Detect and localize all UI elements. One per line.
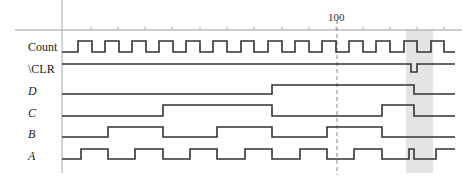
waveform-c — [62, 105, 455, 116]
waveform-canvas — [0, 0, 472, 179]
waveform-clr — [62, 64, 455, 72]
signal-label-d: D — [28, 84, 37, 98]
signal-label-b: B — [28, 127, 35, 141]
signal-label-c: C — [28, 106, 36, 120]
waveform-d — [62, 85, 455, 94]
waveform-count — [62, 41, 455, 52]
signal-label-a: A — [28, 149, 35, 163]
waveform-a — [62, 149, 455, 159]
signal-label-count: Count — [28, 40, 57, 54]
time-marker-label: 100 — [328, 11, 345, 23]
timing-diagram: Count\CLRDCBA 100 — [0, 0, 472, 179]
signal-label-clr: \CLR — [28, 62, 55, 76]
waveform-b — [62, 127, 455, 137]
